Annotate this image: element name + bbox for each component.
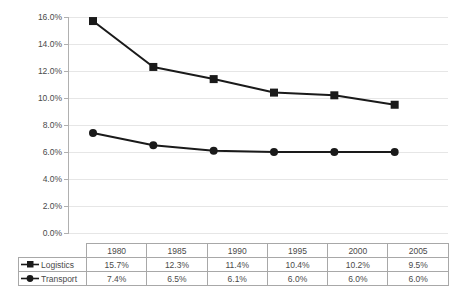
table-cell: 6.1% <box>207 272 267 286</box>
data-point-marker <box>270 89 278 97</box>
legend-square-marker-icon <box>21 259 39 270</box>
series-line <box>93 133 395 152</box>
data-point-marker <box>149 63 157 71</box>
table-header-row: 1980 1985 1990 1995 2000 2005 <box>19 244 449 258</box>
series-line <box>93 21 395 105</box>
data-point-marker <box>149 141 157 149</box>
data-table: 1980 1985 1990 1995 2000 2005 Logistics <box>18 243 449 286</box>
series-label: Transport <box>41 273 77 285</box>
series-label: Logistics <box>41 259 74 271</box>
table-corner-cell <box>19 244 87 258</box>
data-point-marker <box>210 75 218 83</box>
column-header: 2005 <box>388 244 448 258</box>
table-cell: 11.4% <box>207 258 267 272</box>
data-point-marker <box>89 17 97 25</box>
data-point-marker <box>330 148 338 156</box>
table-cell: 6.0% <box>267 272 327 286</box>
legend-row-transport: Transport <box>19 272 87 286</box>
table-cell: 15.7% <box>87 258 147 272</box>
column-header: 2000 <box>328 244 388 258</box>
legend-row-logistics: Logistics <box>19 258 87 272</box>
chart-canvas <box>0 0 456 246</box>
plot-area: 16.0% 14.0% 12.0% 10.0% 8.0% 6.0% 4.0% 2… <box>0 0 456 246</box>
chart-figure: 16.0% 14.0% 12.0% 10.0% 8.0% 6.0% 4.0% 2… <box>0 0 456 286</box>
column-header: 1980 <box>87 244 147 258</box>
table-row: Transport 7.4% 6.5% 6.1% 6.0% 6.0% 6.0% <box>19 272 449 286</box>
data-point-marker <box>210 147 218 155</box>
data-point-marker <box>391 148 399 156</box>
table-cell: 10.2% <box>328 258 388 272</box>
table-row: Logistics 15.7% 12.3% 11.4% 10.4% 10.2% … <box>19 258 449 272</box>
column-header: 1995 <box>267 244 327 258</box>
table-cell: 6.5% <box>147 272 207 286</box>
data-point-marker <box>330 91 338 99</box>
table-cell: 12.3% <box>147 258 207 272</box>
table-cell: 6.0% <box>328 272 388 286</box>
column-header: 1985 <box>147 244 207 258</box>
data-point-marker <box>270 148 278 156</box>
table-cell: 6.0% <box>388 272 448 286</box>
legend-circle-marker-icon <box>21 273 39 284</box>
column-header: 1990 <box>207 244 267 258</box>
gridlines <box>68 17 448 233</box>
table-cell: 9.5% <box>388 258 448 272</box>
series-layer <box>89 17 399 156</box>
data-point-marker <box>89 129 97 137</box>
table-cell: 7.4% <box>87 272 147 286</box>
table-cell: 10.4% <box>267 258 327 272</box>
data-point-marker <box>391 101 399 109</box>
axis-lines <box>64 17 68 234</box>
